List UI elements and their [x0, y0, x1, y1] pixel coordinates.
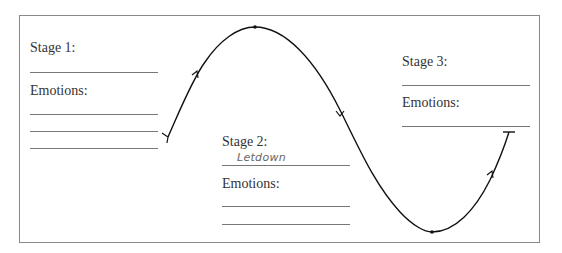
emotional-cycle-curve: [0, 0, 562, 253]
trough-dot-icon: [430, 230, 434, 234]
start-tail-icon: [162, 133, 168, 143]
arrow-up-icon: [192, 71, 198, 78]
peak-dot-icon: [253, 25, 257, 29]
